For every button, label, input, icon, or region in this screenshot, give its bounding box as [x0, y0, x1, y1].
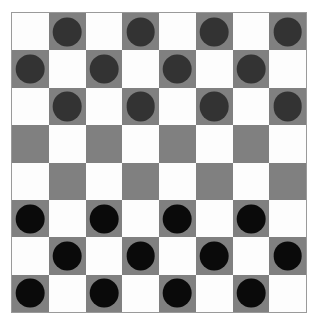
dark-gray-piece-b6[interactable] [53, 92, 82, 121]
board-square-a7[interactable] [12, 50, 49, 87]
board-square-f5[interactable] [196, 125, 233, 162]
black-piece-e1[interactable] [163, 279, 192, 308]
board-square-g7[interactable] [233, 50, 270, 87]
board-square-f2[interactable] [196, 237, 233, 274]
board-square-c6[interactable] [86, 88, 123, 125]
board-square-f8[interactable] [196, 13, 233, 50]
board-square-b6[interactable] [49, 88, 86, 125]
board-square-g2[interactable] [233, 237, 270, 274]
black-piece-c1[interactable] [90, 279, 119, 308]
board-square-d2[interactable] [122, 237, 159, 274]
black-piece-a1[interactable] [16, 279, 45, 308]
board-square-e3[interactable] [159, 200, 196, 237]
board-square-g5[interactable] [233, 125, 270, 162]
dark-gray-piece-d6[interactable] [126, 92, 155, 121]
dark-gray-piece-h8[interactable] [273, 17, 302, 46]
board-square-a3[interactable] [12, 200, 49, 237]
black-piece-a3[interactable] [16, 204, 45, 233]
board-square-d4[interactable] [122, 163, 159, 200]
black-piece-e3[interactable] [163, 204, 192, 233]
board-square-b2[interactable] [49, 237, 86, 274]
board-square-g4[interactable] [233, 163, 270, 200]
board-square-c4[interactable] [86, 163, 123, 200]
board-square-d7[interactable] [122, 50, 159, 87]
board-square-e8[interactable] [159, 13, 196, 50]
board-square-f3[interactable] [196, 200, 233, 237]
board-square-b8[interactable] [49, 13, 86, 50]
board-square-b1[interactable] [49, 275, 86, 312]
board-square-e6[interactable] [159, 88, 196, 125]
board-square-b7[interactable] [49, 50, 86, 87]
board-square-a2[interactable] [12, 237, 49, 274]
board-square-e4[interactable] [159, 163, 196, 200]
board-square-e1[interactable] [159, 275, 196, 312]
board-square-b3[interactable] [49, 200, 86, 237]
black-piece-d2[interactable] [126, 241, 155, 270]
board-square-h3[interactable] [269, 200, 306, 237]
board-square-g6[interactable] [233, 88, 270, 125]
board-square-a5[interactable] [12, 125, 49, 162]
board-square-c7[interactable] [86, 50, 123, 87]
board-square-a4[interactable] [12, 163, 49, 200]
board-square-f7[interactable] [196, 50, 233, 87]
board-square-g8[interactable] [233, 13, 270, 50]
checkers-board[interactable] [11, 12, 307, 313]
board-square-b5[interactable] [49, 125, 86, 162]
board-square-d5[interactable] [122, 125, 159, 162]
board-square-g3[interactable] [233, 200, 270, 237]
board-square-e7[interactable] [159, 50, 196, 87]
board-square-h4[interactable] [269, 163, 306, 200]
black-piece-c3[interactable] [90, 204, 119, 233]
board-square-c2[interactable] [86, 237, 123, 274]
board-square-f1[interactable] [196, 275, 233, 312]
board-square-e5[interactable] [159, 125, 196, 162]
board-square-e2[interactable] [159, 237, 196, 274]
dark-gray-piece-b8[interactable] [53, 17, 82, 46]
dark-gray-piece-e7[interactable] [163, 54, 192, 83]
board-square-h1[interactable] [269, 275, 306, 312]
board-square-h8[interactable] [269, 13, 306, 50]
black-piece-g3[interactable] [237, 204, 266, 233]
board-square-d3[interactable] [122, 200, 159, 237]
dark-gray-piece-f8[interactable] [200, 17, 229, 46]
dark-gray-piece-h6[interactable] [273, 92, 302, 121]
board-square-h5[interactable] [269, 125, 306, 162]
dark-gray-piece-d8[interactable] [126, 17, 155, 46]
board-square-a8[interactable] [12, 13, 49, 50]
board-square-d8[interactable] [122, 13, 159, 50]
board-square-a1[interactable] [12, 275, 49, 312]
board-square-c5[interactable] [86, 125, 123, 162]
board-square-c1[interactable] [86, 275, 123, 312]
dark-gray-piece-c7[interactable] [90, 54, 119, 83]
dark-gray-piece-g7[interactable] [237, 54, 266, 83]
board-square-d1[interactable] [122, 275, 159, 312]
board-square-d6[interactable] [122, 88, 159, 125]
board-square-c3[interactable] [86, 200, 123, 237]
black-piece-f2[interactable] [200, 241, 229, 270]
board-square-c8[interactable] [86, 13, 123, 50]
dark-gray-piece-a7[interactable] [16, 54, 45, 83]
black-piece-g1[interactable] [237, 279, 266, 308]
board-square-b4[interactable] [49, 163, 86, 200]
black-piece-b2[interactable] [53, 241, 82, 270]
board-square-h7[interactable] [269, 50, 306, 87]
board-square-f6[interactable] [196, 88, 233, 125]
dark-gray-piece-f6[interactable] [200, 92, 229, 121]
black-piece-h2[interactable] [273, 241, 302, 270]
board-square-h6[interactable] [269, 88, 306, 125]
board-square-f4[interactable] [196, 163, 233, 200]
board-square-h2[interactable] [269, 237, 306, 274]
board-container [11, 12, 307, 313]
board-square-g1[interactable] [233, 275, 270, 312]
board-square-a6[interactable] [12, 88, 49, 125]
